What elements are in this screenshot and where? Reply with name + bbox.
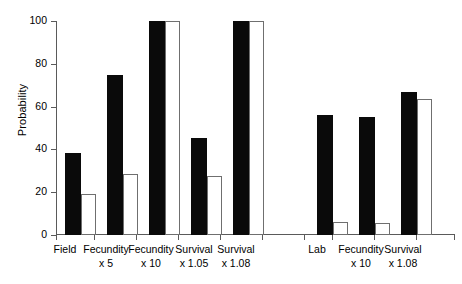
bar-solid-field-survival-x108 — [233, 21, 249, 235]
y-tick-mark-80 — [51, 64, 56, 65]
x-tick-4 — [220, 235, 221, 240]
x-tick-0 — [56, 235, 57, 240]
bar-open-field-fecundity-x10 — [165, 21, 180, 235]
bar-solid-field — [65, 153, 81, 235]
y-tick-label-80: 80 — [35, 57, 47, 69]
bar-solid-lab — [317, 115, 333, 235]
y-tick-mark-20 — [51, 192, 56, 193]
x-tick-6 — [304, 235, 305, 240]
x-label-lab-survival-x108-line1: Survival — [384, 243, 421, 255]
y-tick-mark-100 — [51, 21, 56, 22]
plot-area: 100 80 60 40 20 0 — [56, 21, 455, 235]
x-tick-5 — [262, 235, 263, 240]
x-tick-8 — [374, 235, 375, 240]
x-label-lab-line1: Lab — [308, 243, 326, 255]
x-label-lab-survival-x108: Survival x 1.08 — [370, 243, 436, 270]
y-tick-label-40: 40 — [35, 142, 47, 154]
bar-solid-lab-survival-x108 — [401, 92, 417, 235]
bar-open-field — [81, 194, 96, 235]
y-tick-60: 60 — [22, 107, 56, 108]
y-tick-100: 100 — [22, 21, 56, 22]
x-tick-3 — [178, 235, 179, 240]
x-tick-2 — [136, 235, 137, 240]
x-tick-10 — [454, 235, 455, 240]
x-label-field-survival-x108-line1: Survival — [217, 243, 254, 255]
y-tick-40: 40 — [22, 149, 56, 150]
y-tick-20: 20 — [22, 192, 56, 193]
y-tick-label-60: 60 — [35, 100, 47, 112]
x-tick-7 — [332, 235, 333, 240]
bar-solid-field-survival-x105 — [191, 138, 207, 235]
bar-open-field-fecundity-x5 — [123, 174, 138, 235]
bar-solid-lab-fecundity-x10 — [359, 117, 375, 235]
x-tick-1 — [94, 235, 95, 240]
x-label-lab-survival-x108-line2: x 1.08 — [370, 257, 436, 271]
y-tick-label-100: 100 — [29, 14, 47, 26]
bar-solid-field-fecundity-x5 — [107, 75, 123, 236]
x-label-field-survival-x108: Survival x 1.08 — [203, 243, 269, 270]
y-tick-mark-60 — [51, 107, 56, 108]
y-axis-line — [56, 21, 57, 236]
bar-open-lab — [333, 222, 348, 235]
y-tick-label-20: 20 — [35, 185, 47, 197]
bar-open-lab-fecundity-x10 — [375, 223, 390, 235]
y-tick-80: 80 — [22, 64, 56, 65]
bar-open-lab-survival-x108 — [417, 99, 432, 235]
x-tick-9 — [416, 235, 417, 240]
bar-chart-figure: Probability 100 80 60 40 20 0 — [0, 0, 462, 284]
bar-solid-field-fecundity-x10 — [149, 21, 165, 235]
x-label-field-survival-x108-line2: x 1.08 — [203, 257, 269, 271]
y-tick-label-0: 0 — [41, 228, 47, 240]
bar-open-field-survival-x105 — [207, 176, 222, 235]
y-tick-mark-40 — [51, 149, 56, 150]
bar-open-field-survival-x108 — [249, 21, 264, 235]
y-tick-0: 0 — [22, 235, 56, 236]
